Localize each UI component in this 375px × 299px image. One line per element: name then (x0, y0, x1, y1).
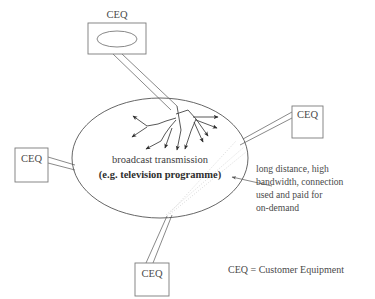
node-ceq-top[interactable]: CEQ (88, 9, 146, 54)
link-ceq-bottom (146, 215, 172, 263)
node-ceq-bottom[interactable]: CEQ (135, 263, 169, 296)
node-ceq-left-label: CEQ (21, 153, 42, 164)
annotation-line-4: on-demand (256, 202, 299, 213)
diagram-canvas: CEQ CEQ CEQ CEQ broadcast transmission (… (0, 0, 375, 299)
node-ceq-bottom-label: CEQ (142, 268, 163, 279)
node-ceq-left[interactable]: CEQ (15, 148, 48, 182)
screen-icon (97, 31, 137, 47)
node-ceq-right-label: CEQ (297, 109, 318, 120)
legend-text: CEQ = Customer Equipment (228, 264, 344, 275)
link-ceq-right (240, 112, 292, 145)
cloud-caption-line2: (e.g. television programme) (99, 169, 222, 181)
annotation-line-2: bandwidth, connection (256, 176, 344, 187)
cloud-caption: broadcast transmission (e.g. television … (99, 154, 222, 181)
on-demand-annotation: long distance, high bandwidth, connectio… (256, 163, 344, 213)
link-ceq-top (113, 54, 177, 110)
annotation-line-3: used and paid for (256, 189, 323, 200)
cloud-caption-line1: broadcast transmission (112, 154, 209, 165)
node-ceq-right[interactable]: CEQ (292, 106, 323, 138)
link-ceq-left (48, 157, 75, 170)
broadcast-tree (132, 106, 218, 150)
annotation-line-1: long distance, high (256, 163, 329, 174)
node-ceq-top-label: CEQ (107, 9, 128, 20)
network-diagram: CEQ CEQ CEQ CEQ broadcast transmission (… (0, 0, 375, 299)
